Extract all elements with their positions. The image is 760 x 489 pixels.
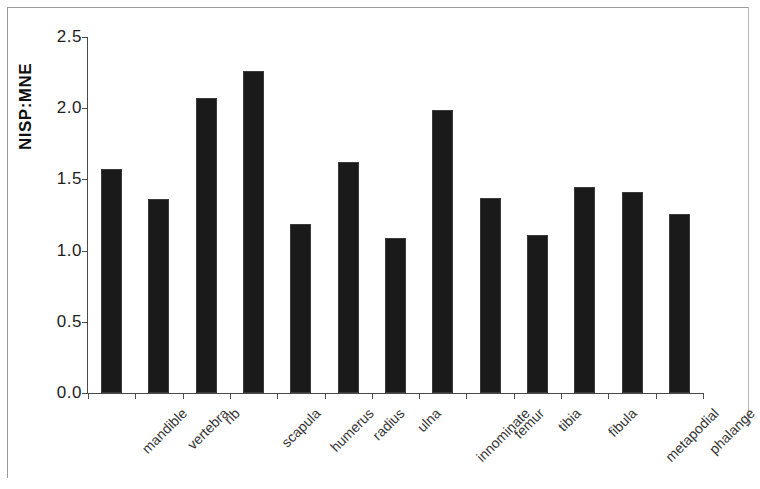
bar — [243, 71, 264, 393]
x-axis-tick-label: scapula — [278, 405, 323, 450]
bar — [574, 187, 595, 393]
bar — [196, 98, 217, 393]
y-axis-tick-label: 2.5 — [57, 27, 82, 47]
x-axis-tick-label: humerus — [327, 405, 377, 455]
y-axis-tick-label: 0.0 — [57, 383, 82, 403]
x-axis-tick — [703, 393, 704, 399]
y-axis-tick — [82, 108, 88, 109]
y-axis-tick — [82, 322, 88, 323]
x-axis-tick — [656, 393, 657, 399]
x-axis-tick — [277, 393, 278, 399]
y-axis-tick — [82, 179, 88, 180]
x-axis-tick — [466, 393, 467, 399]
y-axis-tick — [82, 37, 88, 38]
x-axis-tick-label: mandible — [138, 405, 189, 456]
bar — [338, 162, 359, 393]
x-axis-tick — [419, 393, 420, 399]
x-axis-tick-label: radius — [369, 405, 407, 443]
y-axis-label: NISP:MNE — [16, 63, 36, 150]
bar — [148, 199, 169, 393]
bar — [101, 169, 122, 393]
x-axis-tick — [135, 393, 136, 399]
x-axis-tick-label: tibia — [555, 405, 584, 434]
y-axis-tick-label: 1.0 — [57, 241, 82, 261]
y-axis-line — [87, 37, 88, 394]
bar — [669, 214, 690, 393]
plot-area: 0.00.51.01.52.02.5 mandiblevertebraribsc… — [88, 37, 703, 393]
x-axis-tick — [325, 393, 326, 399]
x-axis-tick — [608, 393, 609, 399]
x-axis-tick-label: fibula — [605, 405, 640, 440]
x-axis-tick — [230, 393, 231, 399]
x-axis-tick — [514, 393, 515, 399]
bar — [385, 238, 406, 393]
bar — [527, 235, 548, 393]
x-axis-tick — [183, 393, 184, 399]
bar — [432, 110, 453, 393]
bar — [622, 192, 643, 393]
x-axis-tick-label: ulna — [413, 405, 443, 435]
y-axis-tick — [82, 251, 88, 252]
bar — [480, 198, 501, 393]
bar — [290, 224, 311, 393]
x-axis-line — [87, 393, 703, 394]
figure-container: NISP:MNE 0.00.51.01.52.02.5 mandiblevert… — [0, 0, 760, 489]
y-axis-tick-label: 0.5 — [57, 312, 82, 332]
x-axis-tick-label: metapodial — [662, 405, 722, 465]
x-axis-tick — [561, 393, 562, 399]
figure-border-right — [748, 7, 749, 427]
y-axis-tick-label: 1.5 — [57, 169, 82, 189]
x-axis-tick — [372, 393, 373, 399]
x-axis-tick — [88, 393, 89, 399]
y-axis-tick-label: 2.0 — [57, 98, 82, 118]
